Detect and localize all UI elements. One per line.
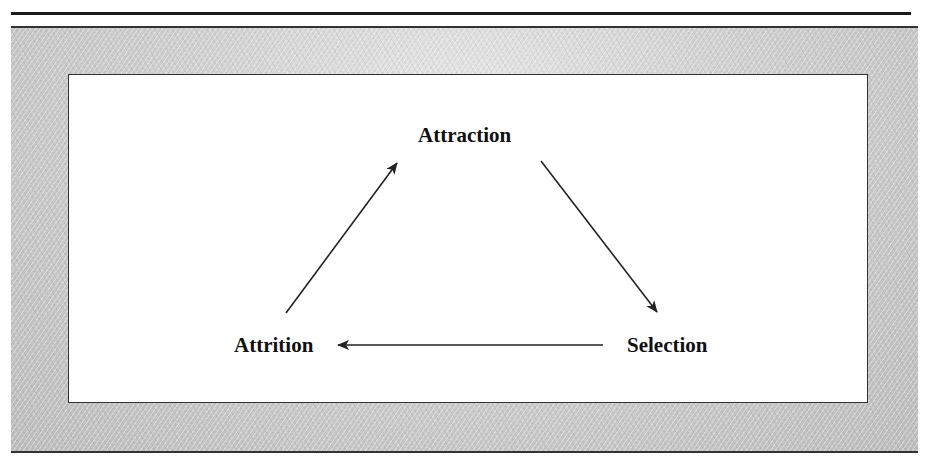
node-selection: Selection bbox=[627, 333, 707, 358]
arrow-attraction-to-selection bbox=[541, 161, 657, 312]
node-attrition: Attrition bbox=[234, 333, 313, 358]
arrow-attrition-to-attraction bbox=[286, 163, 397, 313]
cycle-arrows bbox=[0, 0, 940, 471]
node-attraction: Attraction bbox=[418, 123, 511, 148]
